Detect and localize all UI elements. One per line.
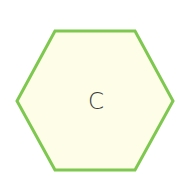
hexagon-diagram: C — [0, 0, 182, 177]
hexagon-label: C — [88, 88, 104, 114]
